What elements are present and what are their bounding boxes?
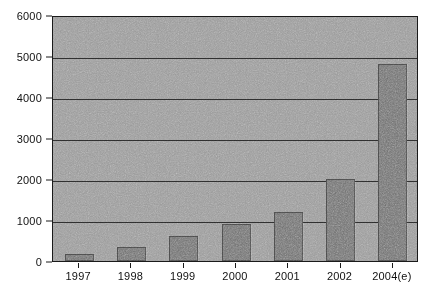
y-tick-mark-2000	[46, 180, 52, 181]
x-tick-label-2001: 2001	[275, 270, 300, 282]
y-tick-mark-6000	[46, 16, 52, 17]
bar-texture	[327, 180, 356, 262]
y-tick-label-2000: 2000	[17, 174, 42, 186]
y-tick-mark-5000	[46, 57, 52, 58]
gridline-4000	[53, 99, 417, 100]
x-tick-label-2000: 2000	[222, 270, 247, 282]
y-tick-mark-4000	[46, 98, 52, 99]
x-tick-mark-2001	[287, 263, 288, 268]
bar-chart-figure: 0100020003000400050006000 19971998199920…	[0, 0, 437, 295]
y-tick-label-5000: 5000	[17, 51, 42, 63]
x-tick-label-1998: 1998	[118, 270, 143, 282]
gridline-3000	[53, 140, 417, 141]
bar-1997	[65, 254, 94, 261]
x-tick-mark-2002	[340, 263, 341, 268]
bar-texture	[118, 248, 147, 262]
x-tick-label-2004(e): 2004(e)	[372, 270, 411, 282]
x-tick-label-1997: 1997	[66, 270, 91, 282]
gridline-1000	[53, 222, 417, 223]
plot-area	[52, 16, 418, 262]
bar-2004(e)	[378, 64, 407, 261]
x-tick-mark-1998	[130, 263, 131, 268]
bar-2000	[222, 224, 251, 261]
x-tick-mark-2004(e)	[392, 263, 393, 268]
bar-texture	[170, 237, 199, 262]
gridline-5000	[53, 58, 417, 59]
y-tick-label-6000: 6000	[17, 10, 42, 22]
x-tick-label-2002: 2002	[327, 270, 352, 282]
y-tick-mark-3000	[46, 139, 52, 140]
y-tick-label-4000: 4000	[17, 92, 42, 104]
bar-2002	[326, 179, 355, 261]
x-tick-mark-1997	[78, 263, 79, 268]
bar-1998	[117, 247, 146, 261]
bar-texture	[66, 255, 95, 262]
x-tick-mark-2000	[235, 263, 236, 268]
y-tick-label-1000: 1000	[17, 215, 42, 227]
x-axis: 1997199819992000200120022004(e)	[52, 263, 418, 295]
bar-1999	[169, 236, 198, 261]
y-tick-mark-1000	[46, 221, 52, 222]
bar-texture	[379, 65, 408, 262]
bar-texture	[275, 213, 304, 262]
x-tick-mark-1999	[183, 263, 184, 268]
y-tick-label-0: 0	[36, 256, 42, 268]
gridline-2000	[53, 181, 417, 182]
bar-2001	[274, 212, 303, 261]
bar-texture	[223, 225, 252, 262]
y-tick-label-3000: 3000	[17, 133, 42, 145]
y-axis: 0100020003000400050006000	[0, 0, 52, 295]
x-tick-label-1999: 1999	[170, 270, 195, 282]
